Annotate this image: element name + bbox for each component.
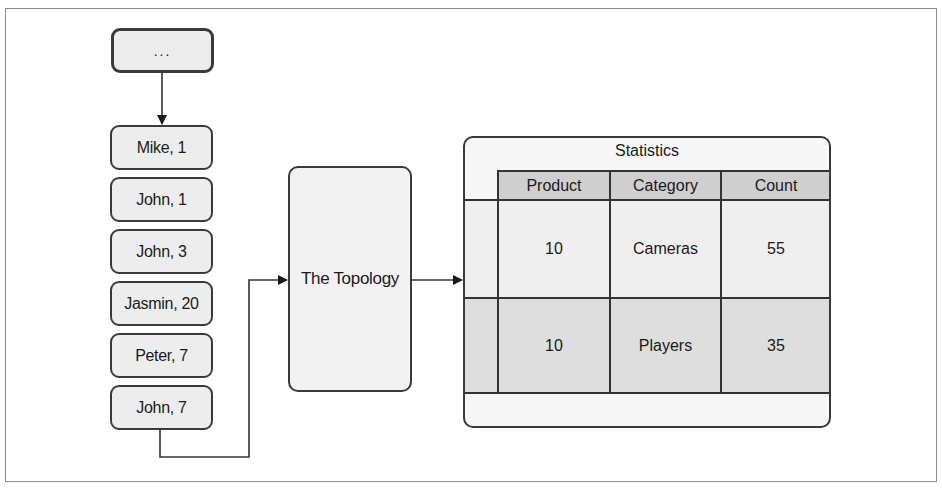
- cell-product: 10: [498, 298, 610, 393]
- column-header-count: Count: [721, 171, 831, 200]
- grid-line: [465, 199, 831, 201]
- stream-item: Peter, 7: [110, 333, 213, 378]
- cell-count: 35: [721, 298, 831, 393]
- column-header-category: Category: [610, 171, 721, 200]
- grid-line: [498, 170, 831, 172]
- source-node-label: ...: [154, 43, 172, 59]
- statistics-table: Statistics Product Category Count 10 Cam…: [463, 136, 831, 428]
- grid-line: [497, 170, 499, 394]
- stream-item-label: John, 1: [136, 191, 186, 209]
- cell-count: 55: [721, 200, 831, 298]
- stream-item-label: Peter, 7: [135, 347, 188, 365]
- stream-item: Mike, 1: [110, 125, 213, 170]
- source-node: ...: [111, 28, 214, 73]
- stream-item: John, 3: [110, 229, 213, 274]
- cell-category: Cameras: [610, 200, 721, 298]
- column-header-product: Product: [498, 171, 610, 200]
- grid-line: [465, 392, 831, 394]
- stream-item-label: Mike, 1: [137, 139, 186, 157]
- grid-line: [465, 297, 831, 299]
- topology-node: The Topology: [288, 166, 412, 392]
- stream-item: John, 1: [110, 177, 213, 222]
- stream-item-label: Jasmin, 20: [124, 295, 198, 313]
- cell-category: Players: [610, 298, 721, 393]
- statistics-title: Statistics: [465, 142, 829, 160]
- stream-item-label: John, 3: [136, 243, 186, 261]
- grid-line: [720, 170, 722, 394]
- topology-label: The Topology: [301, 269, 399, 289]
- grid-line: [609, 170, 611, 394]
- stream-item: Jasmin, 20: [110, 281, 213, 326]
- cell-product: 10: [498, 200, 610, 298]
- stream-item: John, 7: [110, 385, 213, 430]
- stream-item-label: John, 7: [136, 399, 186, 417]
